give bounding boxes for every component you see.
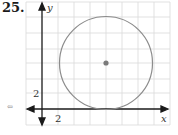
y-axis-label: y <box>46 2 53 13</box>
x-axis-right-arrow-icon <box>161 106 168 112</box>
center-point <box>103 60 108 65</box>
y-axis-up-arrow-icon <box>39 3 45 10</box>
y-tick-label: 2 <box>33 88 39 99</box>
y-axis-down-arrow-icon <box>39 118 45 125</box>
x-axis-label: x <box>161 113 167 124</box>
y-axis <box>39 3 45 125</box>
coordinate-plane: y x 2 2 <box>0 0 178 135</box>
grid <box>26 2 170 125</box>
x-tick-label: 2 <box>55 113 61 124</box>
x-axis-left-arrow-icon <box>27 106 34 112</box>
